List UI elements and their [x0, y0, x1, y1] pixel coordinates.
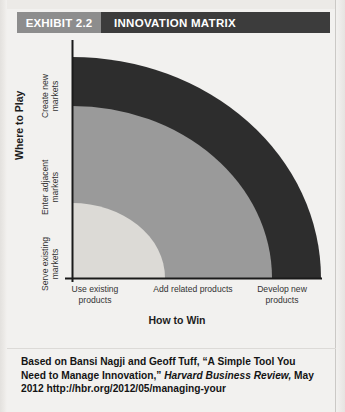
caption-line-1: Based on Bansi Nagji and Geoff Tuff, “A … — [21, 356, 296, 367]
page-top-edge — [0, 0, 345, 9]
exhibit-header: EXHIBIT 2.2 INNOVATION MATRIX — [17, 12, 330, 33]
page-left-edge — [0, 0, 7, 412]
exhibit-title: INNOVATION MATRIX — [101, 12, 330, 33]
y-axis-title: Where to Play — [13, 91, 25, 160]
source-caption: Based on Bansi Nagji and Geoff Tuff, “A … — [21, 355, 321, 396]
caption-journal-title: Harvard Business Review, — [164, 370, 291, 381]
x-tick-label-use-existing-products: Use existing products — [57, 284, 133, 305]
page-right-edge — [336, 0, 345, 412]
y-tick-label-enter-adjacent-markets: Enter adjacent markets — [40, 160, 60, 215]
x-tick-line-1: Use existing — [72, 284, 119, 294]
band-group — [72, 57, 321, 278]
caption-divider — [7, 348, 336, 349]
x-tick-line-2: products — [79, 295, 112, 305]
x-axis-title: How to Win — [117, 314, 237, 326]
y-tick-line-1: Enter adjacent — [40, 160, 50, 215]
y-tick-label-serve-existing-markets: Serve existing markets — [40, 237, 60, 291]
x-tick-line-1: Add related products — [153, 284, 232, 294]
y-tick-line-1: Serve existing — [40, 237, 50, 291]
y-tick-label-create-new-markets: Create new markets — [40, 74, 60, 118]
y-tick-line-1: Create new — [40, 74, 50, 118]
y-tick-line-2: markets — [50, 249, 60, 280]
y-tick-line-2: markets — [50, 81, 60, 112]
x-tick-line-1: Develop new — [257, 284, 307, 294]
x-tick-line-2: products — [266, 295, 299, 305]
page-right-rule — [335, 0, 336, 412]
x-tick-label-add-related-products: Add related products — [145, 284, 241, 295]
y-tick-line-2: markets — [50, 172, 60, 203]
innovation-matrix-chart: Where to Play Serve existing markets Ent… — [17, 38, 330, 343]
caption-line-2-prefix: Need to Manage Innovation,” — [21, 370, 164, 381]
exhibit-number-tag: EXHIBIT 2.2 — [17, 12, 101, 33]
x-tick-label-develop-new-products: Develop new products — [243, 284, 321, 305]
